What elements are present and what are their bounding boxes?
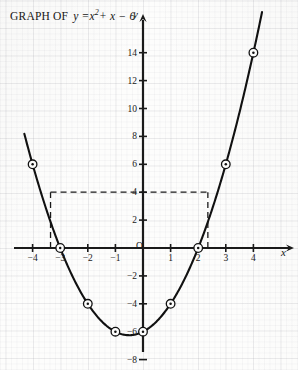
y-tick-label: 8 [117,131,137,141]
data-point-center-dot [142,330,145,333]
data-point-center-dot [87,303,90,306]
y-tick-label: 4 [117,187,137,197]
x-tick-label: 4 [251,253,256,263]
data-point-center-dot [169,303,172,306]
data-point-center-dot [252,51,255,54]
x-tick-label: −4 [28,253,38,263]
y-tick-label: 6 [117,159,137,169]
x-tick-label: −2 [83,253,93,263]
y-tick-label: −8 [117,355,137,365]
y-tick-label: 14 [117,48,137,58]
x-tick-label: 2 [196,253,201,263]
x-tick-label: −1 [110,253,120,263]
data-point-center-dot [31,163,34,166]
y-tick-label: 12 [117,76,137,86]
graph-figure: GRAPH OFy =x2+ x − 6 y x O 1412108642−2−… [0,0,298,370]
plot-area [0,0,298,370]
y-tick-label: −2 [117,271,137,281]
data-point-center-dot [59,247,62,250]
y-tick-label: −6 [117,327,137,337]
data-point-center-dot [225,163,228,166]
x-tick-label: −3 [55,253,65,263]
data-point-center-dot [197,247,200,250]
x-tick-label: 3 [223,253,228,263]
x-tick-label: 1 [168,253,173,263]
y-tick-label: 2 [117,215,137,225]
y-tick-label: 10 [117,104,137,114]
y-tick-label: −4 [117,299,137,309]
